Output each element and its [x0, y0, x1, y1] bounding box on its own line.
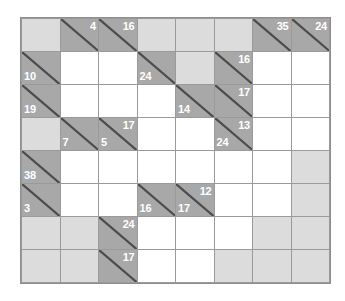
clue-down-value: 12: [200, 184, 212, 199]
kakuro-grid: 4163524102416191417717513243831612172417: [20, 17, 331, 284]
kakuro-entry-cell-r2c8[interactable]: [291, 52, 330, 85]
kakuro-entry-cell-r8c4[interactable]: [137, 250, 176, 283]
kakuro-blocked-cell-r1c4: [137, 19, 176, 52]
kakuro-clue-cell-r4c3: 175: [99, 118, 138, 151]
kakuro-puzzle: 4163524102416191417717513243831612172417: [0, 0, 345, 301]
kakuro-entry-cell-r3c2[interactable]: [60, 85, 99, 118]
kakuro-row: 4163524: [22, 19, 330, 52]
kakuro-entry-cell-r7c4[interactable]: [137, 217, 176, 250]
kakuro-clue-cell-r4c6: 1324: [214, 118, 253, 151]
clue-right-value: 16: [140, 201, 152, 216]
clue-right-value: 14: [178, 102, 190, 117]
kakuro-blocked-cell-r7c1: [22, 217, 61, 250]
clue-right-value: 10: [24, 69, 36, 84]
kakuro-entry-cell-r5c7[interactable]: [253, 151, 292, 184]
clue-right-value: 38: [24, 168, 36, 183]
kakuro-blocked-cell-r7c8: [291, 217, 330, 250]
kakuro-entry-cell-r5c2[interactable]: [60, 151, 99, 184]
kakuro-blocked-cell-r8c8: [291, 250, 330, 283]
kakuro-blocked-cell-r8c7: [253, 250, 292, 283]
clue-right-value: 24: [217, 135, 229, 150]
kakuro-clue-cell-r6c5: 1217: [176, 184, 215, 217]
kakuro-blocked-cell-r1c1: [22, 19, 61, 52]
kakuro-clue-cell-r1c7: 35: [253, 19, 292, 52]
clue-down-value: 24: [315, 19, 327, 34]
kakuro-grid-body: 4163524102416191417717513243831612172417: [22, 19, 330, 283]
kakuro-clue-cell-r8c3: 17: [99, 250, 138, 283]
kakuro-entry-cell-r6c6[interactable]: [214, 184, 253, 217]
clue-down-value: 17: [123, 250, 135, 265]
kakuro-clue-cell-r1c8: 24: [291, 19, 330, 52]
clue-right-value: 5: [101, 135, 107, 150]
kakuro-entry-cell-r2c7[interactable]: [253, 52, 292, 85]
kakuro-clue-cell-r2c6: 16: [214, 52, 253, 85]
clue-down-value: 4: [90, 19, 96, 34]
kakuro-blocked-cell-r8c1: [22, 250, 61, 283]
kakuro-clue-cell-r7c3: 24: [99, 217, 138, 250]
kakuro-entry-cell-r4c7[interactable]: [253, 118, 292, 151]
kakuro-entry-cell-r4c4[interactable]: [137, 118, 176, 151]
kakuro-entry-cell-r3c7[interactable]: [253, 85, 292, 118]
kakuro-entry-cell-r3c3[interactable]: [99, 85, 138, 118]
kakuro-entry-cell-r5c3[interactable]: [99, 151, 138, 184]
kakuro-entry-cell-r2c3[interactable]: [99, 52, 138, 85]
kakuro-blocked-cell-r1c6: [214, 19, 253, 52]
kakuro-entry-cell-r6c7[interactable]: [253, 184, 292, 217]
kakuro-clue-cell-r2c1: 10: [22, 52, 61, 85]
clue-right-value: 19: [24, 102, 36, 117]
clue-right-value: 7: [63, 135, 69, 150]
kakuro-entry-cell-r7c6[interactable]: [214, 217, 253, 250]
kakuro-grid-table: 4163524102416191417717513243831612172417: [21, 18, 330, 283]
kakuro-blocked-cell-r6c8: [291, 184, 330, 217]
kakuro-blocked-cell-r8c2: [60, 250, 99, 283]
kakuro-clue-cell-r2c4: 24: [137, 52, 176, 85]
kakuro-blocked-cell-r4c1: [22, 118, 61, 151]
clue-down-value: 13: [238, 118, 250, 133]
kakuro-blocked-cell-r8c6: [214, 250, 253, 283]
clue-down-value: 35: [277, 19, 289, 34]
kakuro-blocked-cell-r1c5: [176, 19, 215, 52]
kakuro-entry-cell-r5c4[interactable]: [137, 151, 176, 184]
clue-down-value: 17: [238, 85, 250, 100]
clue-right-value: 3: [24, 201, 30, 216]
clue-right-value: 24: [140, 69, 152, 84]
kakuro-clue-cell-r1c3: 16: [99, 19, 138, 52]
kakuro-clue-cell-r6c4: 16: [137, 184, 176, 217]
kakuro-entry-cell-r5c6[interactable]: [214, 151, 253, 184]
kakuro-entry-cell-r5c5[interactable]: [176, 151, 215, 184]
kakuro-entry-cell-r8c5[interactable]: [176, 250, 215, 283]
kakuro-blocked-cell-r7c2: [60, 217, 99, 250]
kakuro-row: 102416: [22, 52, 330, 85]
kakuro-clue-cell-r4c2: 7: [60, 118, 99, 151]
kakuro-entry-cell-r7c5[interactable]: [176, 217, 215, 250]
kakuro-row: 38: [22, 151, 330, 184]
kakuro-row: 191417: [22, 85, 330, 118]
kakuro-blocked-cell-r2c5: [176, 52, 215, 85]
clue-down-value: 16: [123, 19, 135, 34]
kakuro-clue-cell-r1c2: 4: [60, 19, 99, 52]
clue-down-value: 24: [123, 217, 135, 232]
kakuro-entry-cell-r6c3[interactable]: [99, 184, 138, 217]
kakuro-row: 24: [22, 217, 330, 250]
kakuro-entry-cell-r6c2[interactable]: [60, 184, 99, 217]
kakuro-entry-cell-r4c8[interactable]: [291, 118, 330, 151]
kakuro-clue-cell-r5c1: 38: [22, 151, 61, 184]
clue-down-value: 17: [123, 118, 135, 133]
clue-down-value: 16: [238, 52, 250, 67]
kakuro-row: 71751324: [22, 118, 330, 151]
kakuro-entry-cell-r3c4[interactable]: [137, 85, 176, 118]
kakuro-entry-cell-r3c8[interactable]: [291, 85, 330, 118]
kakuro-clue-cell-r3c5: 14: [176, 85, 215, 118]
kakuro-clue-cell-r3c6: 17: [214, 85, 253, 118]
clue-right-value: 17: [178, 201, 190, 216]
kakuro-row: 17: [22, 250, 330, 283]
kakuro-clue-cell-r3c1: 19: [22, 85, 61, 118]
kakuro-blocked-cell-r7c7: [253, 217, 292, 250]
kakuro-clue-cell-r6c1: 3: [22, 184, 61, 217]
kakuro-entry-cell-r4c5[interactable]: [176, 118, 215, 151]
kakuro-blocked-cell-r5c8: [291, 151, 330, 184]
kakuro-row: 3161217: [22, 184, 330, 217]
kakuro-entry-cell-r2c2[interactable]: [60, 52, 99, 85]
